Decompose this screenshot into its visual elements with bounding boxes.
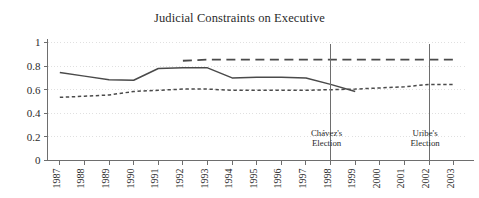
x-tick-label: 1994 [223, 169, 234, 189]
y-tick-labels-group: 00.20.40.60.81 [27, 36, 41, 166]
y-tick-label: 0 [35, 154, 41, 166]
x-tick-label: 1996 [272, 169, 283, 189]
series-line-solid-series [60, 68, 355, 92]
series-line-short-dash-series [60, 84, 454, 97]
annotation-label-chavez-election: Chávez's [311, 128, 343, 138]
x-tick-label: 1992 [174, 169, 185, 189]
x-tick-label: 1989 [100, 169, 111, 189]
x-tick-label: 1995 [248, 169, 259, 189]
x-tick-label: 1999 [346, 169, 357, 189]
x-tick-labels-group: 1987198819891990199119921993199419951996… [51, 169, 456, 189]
y-tick-label: 0.2 [27, 131, 41, 143]
x-tick-label: 1990 [125, 169, 136, 189]
x-tick-label: 2001 [395, 169, 406, 189]
annotations-group: Chávez'sElectionUribe'sElection [311, 128, 440, 148]
chart-plot-area: 00.20.40.60.81 1987198819891990199119921… [0, 0, 479, 198]
y-tick-label: 0.4 [27, 107, 41, 119]
y-tick-label: 1 [35, 36, 41, 48]
annotation-sublabel-uribe-election: Election [410, 138, 440, 148]
x-tick-label: 1987 [51, 169, 62, 189]
x-tick-label: 1991 [149, 169, 160, 189]
x-tick-label: 1997 [297, 169, 308, 189]
y-tick-label: 0.8 [27, 60, 41, 72]
y-tick-label: 0.6 [27, 84, 41, 96]
x-tick-label: 1998 [322, 169, 333, 189]
x-tick-label: 1988 [75, 169, 86, 189]
chart-container: Judicial Constraints on Executive 00.20.… [0, 0, 479, 198]
x-tick-label: 2003 [445, 169, 456, 189]
x-tick-label: 1993 [199, 169, 210, 189]
series-line-long-dash-series [183, 60, 454, 61]
x-tick-label: 2000 [371, 169, 382, 189]
annotation-label-uribe-election: Uribe's [413, 128, 439, 138]
x-tick-label: 2002 [420, 169, 431, 189]
annotation-sublabel-chavez-election: Election [312, 138, 342, 148]
series-group [60, 60, 454, 98]
